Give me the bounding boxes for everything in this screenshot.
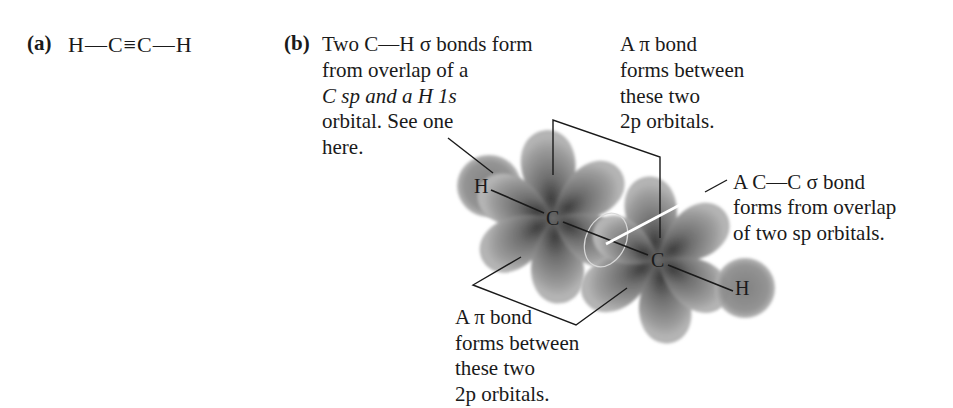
- atom-c-left: C: [546, 207, 559, 229]
- atom-h-right: H: [735, 277, 749, 299]
- atom-c-right: C: [651, 249, 664, 271]
- atom-h-left: H: [474, 175, 488, 197]
- cc-sigma-leader-line: [705, 180, 727, 192]
